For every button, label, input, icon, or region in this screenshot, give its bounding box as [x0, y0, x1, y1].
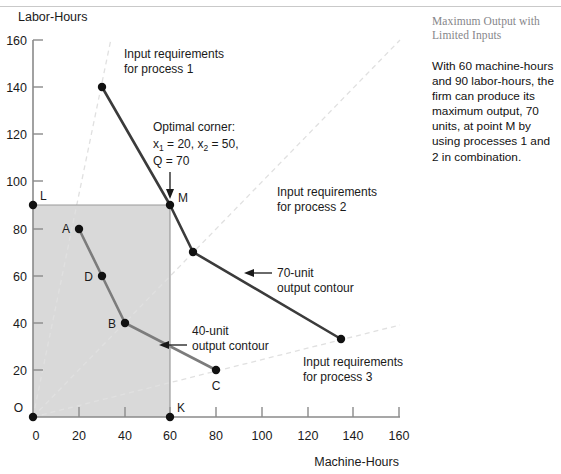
annotation-process-1-line2: for process 1 — [124, 62, 194, 76]
y-tick-label-160: 160 — [6, 34, 27, 48]
contour-70-arrow-head — [244, 269, 254, 277]
point-marker-process3-70 — [337, 335, 345, 343]
annotation-optimal-corner-line2: x1 = 20, x2 = 50, — [153, 137, 239, 153]
point-label-K: K — [177, 401, 185, 415]
point-label-M: M — [178, 191, 188, 205]
optimal-x2-value: = 50, — [208, 137, 238, 151]
x-tick-label-120: 120 — [298, 429, 319, 443]
side-caption-panel: Maximum Output with Limited Inputs With … — [432, 14, 554, 165]
figure-container: 160 140 120 100 80 60 40 20 0 20 40 60 8… — [0, 0, 561, 474]
y-tick-label-0: 0 — [33, 429, 40, 443]
optimal-x1-value: = 20, — [164, 137, 198, 151]
point-marker-D — [98, 272, 106, 280]
annotation-contour-70-line2: output contour — [277, 281, 354, 295]
x-tick-label-60: 60 — [163, 429, 177, 443]
chart-plot-area: 160 140 120 100 80 60 40 20 0 20 40 60 8… — [0, 0, 410, 474]
figure-side-title: Maximum Output with Limited Inputs — [432, 14, 554, 42]
annotation-process-2-line2: for process 2 — [277, 200, 347, 214]
point-label-A: A — [62, 222, 70, 236]
point-marker-K — [166, 413, 174, 421]
y-tick-label-140: 140 — [6, 81, 27, 95]
y-tick-label-80: 80 — [13, 223, 27, 237]
y-axis-title: Labor-Hours — [18, 10, 87, 24]
point-label-O: O — [14, 401, 23, 415]
annotation-process-3-line1: Input requirements — [303, 355, 403, 369]
x-tick-label-140: 140 — [343, 429, 364, 443]
annotation-process-2-line1: Input requirements — [277, 185, 377, 199]
point-label-D: D — [84, 270, 93, 284]
x-tick-label-40: 40 — [118, 429, 132, 443]
point-marker-process1-70 — [98, 83, 106, 91]
point-label-C: C — [212, 379, 221, 393]
optimal-corner-arrow-head — [166, 189, 174, 199]
x-tick-label-160: 160 — [389, 429, 410, 443]
y-tick-label-20: 20 — [13, 364, 27, 378]
x-tick-label-20: 20 — [72, 429, 86, 443]
annotation-contour-40-line2: output contour — [192, 339, 269, 353]
point-marker-process2-70 — [189, 248, 197, 256]
annotation-process-3-line2: for process 3 — [303, 370, 373, 384]
x-axis-title: Machine-Hours — [314, 455, 399, 469]
point-marker-L — [29, 201, 37, 209]
annotation-contour-40-line1: 40-unit — [192, 324, 229, 338]
y-tick-label-100: 100 — [6, 175, 27, 189]
point-marker-B — [121, 319, 129, 327]
point-marker-O — [29, 413, 37, 421]
y-tick-label-60: 60 — [13, 270, 27, 284]
point-marker-M — [166, 201, 174, 209]
point-marker-C — [212, 366, 220, 374]
figure-side-caption: With 60 machine-hours and 90 labor-hours… — [432, 59, 554, 165]
feasible-region-shading — [33, 205, 170, 417]
x-tick-label-100: 100 — [252, 429, 273, 443]
annotation-optimal-corner-line3: Q = 70 — [153, 154, 190, 168]
y-tick-label-120: 120 — [6, 128, 27, 142]
annotation-process-1-line1: Input requirements — [124, 47, 224, 61]
annotation-contour-70-line1: 70-unit — [277, 266, 314, 280]
annotation-optimal-corner-line1: Optimal corner: — [153, 120, 235, 134]
point-marker-A — [75, 225, 83, 233]
y-tick-label-40: 40 — [13, 317, 27, 331]
point-label-B: B — [108, 317, 116, 331]
point-label-L: L — [40, 189, 47, 203]
x-tick-label-80: 80 — [209, 429, 223, 443]
